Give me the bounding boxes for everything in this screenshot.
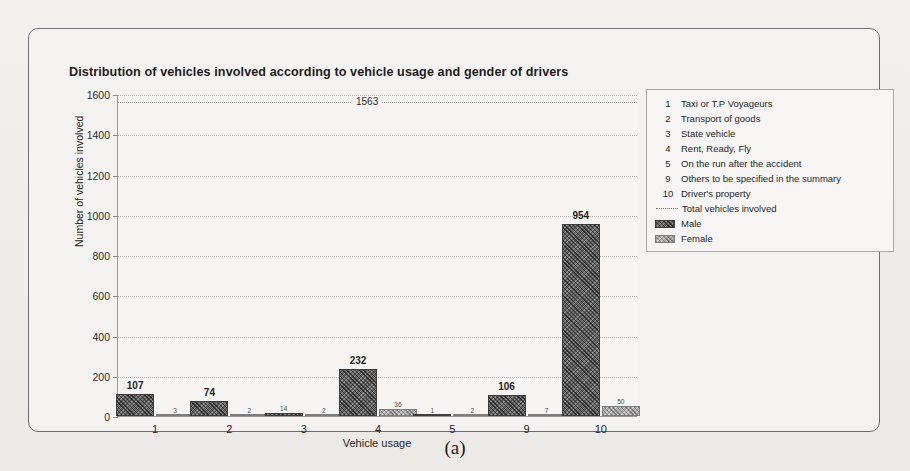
bar-group: 7422 xyxy=(192,95,266,416)
bar-value-label: 107 xyxy=(127,380,144,391)
legend-code-key: 5 xyxy=(655,158,681,169)
y-tick-label: 1000 xyxy=(87,210,110,222)
bar-male-5[interactable] xyxy=(413,414,451,416)
bar-female-3[interactable] xyxy=(305,414,343,416)
figure-frame: Distribution of vehicles involved accord… xyxy=(28,28,880,432)
bar-group: 1423 xyxy=(267,95,341,416)
figure-caption: (a) xyxy=(444,437,465,459)
bar-group: 232364 xyxy=(341,95,415,416)
bar-female-2[interactable] xyxy=(230,414,268,416)
legend-code-row: 5On the run after the accident xyxy=(655,156,887,171)
y-tick-mark xyxy=(113,417,118,418)
legend-code-row: 3State vehicle xyxy=(655,126,887,141)
chart-legend: 1Taxi or T.P Voyageurs2Transport of good… xyxy=(646,89,894,252)
y-tick-label: 200 xyxy=(92,371,110,383)
x-tick-label-10: 10 xyxy=(595,423,607,435)
legend-code-label: On the run after the accident xyxy=(681,158,801,169)
x-tick-label-5: 5 xyxy=(449,423,455,435)
y-tick-label: 1400 xyxy=(87,129,110,141)
legend-code-label: Transport of goods xyxy=(681,113,760,124)
y-tick-label: 1600 xyxy=(87,89,110,101)
legend-code-key: 1 xyxy=(655,98,681,109)
legend-code-row: 9Others to be specified in the summary xyxy=(655,171,887,186)
legend-code-row: 10Driver's property xyxy=(655,186,887,201)
y-tick-label: 400 xyxy=(92,330,110,342)
male-swatch-icon xyxy=(655,220,675,228)
bar-group: 10731 xyxy=(118,95,192,416)
bar-female-1[interactable] xyxy=(156,414,194,416)
bar-value-label: 3 xyxy=(173,407,177,414)
legend-code-key: 3 xyxy=(655,128,681,139)
y-tick-label: 800 xyxy=(92,250,110,262)
legend-series-row: Total vehicles involved xyxy=(655,201,887,216)
bar-group: 125 xyxy=(415,95,489,416)
bar-value-label: 2 xyxy=(248,407,252,414)
x-tick-label-1: 1 xyxy=(152,423,158,435)
dotted-line-icon xyxy=(656,208,678,209)
bar-value-label: 1 xyxy=(430,407,434,414)
bar-value-label: 36 xyxy=(394,401,401,408)
x-axis-label: Vehicle usage xyxy=(343,437,412,449)
legend-code-key: 10 xyxy=(655,188,681,199)
bar-male-2[interactable] xyxy=(190,401,228,416)
y-tick-label: 0 xyxy=(104,411,110,423)
x-tick-label-9: 9 xyxy=(524,423,530,435)
legend-series-row: Female xyxy=(655,231,887,246)
legend-code-label: Rent, Ready, Fly xyxy=(681,143,751,154)
legend-code-row: 4Rent, Ready, Fly xyxy=(655,141,887,156)
bar-value-label: 2 xyxy=(322,407,326,414)
bar-value-label: 7 xyxy=(545,407,549,414)
bar-male-4[interactable] xyxy=(339,369,377,416)
bar-value-label: 14 xyxy=(280,405,287,412)
y-tick-label: 600 xyxy=(92,290,110,302)
bar-male-3[interactable] xyxy=(265,413,303,416)
legend-code-row: 1Taxi or T.P Voyageurs xyxy=(655,96,887,111)
bar-group: 9545010 xyxy=(564,95,638,416)
legend-code-key: 9 xyxy=(655,173,681,184)
bar-female-9[interactable] xyxy=(528,414,566,416)
bar-value-label: 954 xyxy=(573,210,590,221)
legend-series-label: Total vehicles involved xyxy=(682,203,777,214)
y-tick-label: 1200 xyxy=(87,169,110,181)
bar-value-label: 106 xyxy=(498,381,515,392)
legend-series-label: Male xyxy=(681,218,702,229)
legend-code-label: Others to be specified in the summary xyxy=(681,173,841,184)
x-tick-label-4: 4 xyxy=(375,423,381,435)
bar-male-1[interactable] xyxy=(116,394,154,416)
legend-code-label: Driver's property xyxy=(681,188,750,199)
bar-male-10[interactable] xyxy=(562,224,600,416)
bar-value-label: 50 xyxy=(617,398,624,405)
x-tick-label-2: 2 xyxy=(226,423,232,435)
y-axis-label: Number of vehicles involved xyxy=(73,116,85,247)
chart-title: Distribution of vehicles involved accord… xyxy=(69,65,568,79)
bar-group: 10679 xyxy=(489,95,563,416)
bar-value-label: 232 xyxy=(350,355,367,366)
bar-value-label: 74 xyxy=(204,387,215,398)
bar-value-label: 2 xyxy=(470,407,474,414)
legend-series-row: Male xyxy=(655,216,887,231)
bar-female-5[interactable] xyxy=(453,414,491,416)
female-swatch-icon xyxy=(655,235,675,243)
x-tick-label-3: 3 xyxy=(301,423,307,435)
bar-female-4[interactable] xyxy=(379,409,417,416)
bar-female-10[interactable] xyxy=(602,406,640,416)
legend-code-label: Taxi or T.P Voyageurs xyxy=(681,98,773,109)
legend-code-key: 2 xyxy=(655,113,681,124)
legend-code-key: 4 xyxy=(655,143,681,154)
legend-series-label: Female xyxy=(681,233,713,244)
legend-code-label: State vehicle xyxy=(681,128,735,139)
bar-male-9[interactable] xyxy=(488,395,526,416)
legend-code-row: 2Transport of goods xyxy=(655,111,887,126)
plot-area: 0200400600800100012001400160015631073174… xyxy=(117,95,637,417)
